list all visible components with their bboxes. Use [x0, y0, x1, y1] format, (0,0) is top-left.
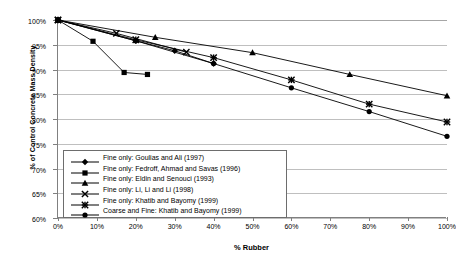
legend-marker-star-icon — [70, 196, 100, 206]
y-axis-tick-label: 95% — [32, 42, 46, 49]
y-axis-tick-label: 70% — [32, 166, 46, 173]
legend-item[interactable]: Fine only: Goulias and Ali (1997) — [64, 153, 286, 164]
x-axis-tick-label: 30% — [168, 223, 182, 230]
series-2 — [55, 17, 451, 99]
legend-item-label: Fine only: Fedroff, Ahmad and Savas (199… — [103, 164, 240, 174]
data-point-circle — [211, 61, 216, 66]
x-axis-tick-label: 80% — [362, 223, 376, 230]
data-point-circle — [82, 213, 87, 218]
series-line — [58, 20, 447, 96]
y-axis-tick-label: 90% — [32, 67, 46, 74]
x-axis-tick-label: 70% — [323, 223, 337, 230]
y-axis-title: % of Control Concrete Mass Density — [29, 8, 36, 208]
x-axis-tick-label: 0% — [53, 223, 63, 230]
y-axis-tick-label: 60% — [32, 216, 46, 223]
x-axis-tick — [447, 217, 448, 221]
y-axis-tick-label: 65% — [32, 191, 46, 198]
legend-marker-diamond-icon — [70, 153, 100, 163]
data-point-circle — [289, 85, 294, 90]
x-axis-title: % Rubber — [57, 243, 446, 252]
x-axis-tick-label: 20% — [129, 223, 143, 230]
x-axis-tick-label: 10% — [90, 223, 104, 230]
chart-legend: Fine only: Goulias and Ali (1997)Fine on… — [63, 150, 287, 218]
data-point-star — [210, 54, 216, 60]
data-point-circle — [133, 38, 138, 43]
x-axis-tick-label: 40% — [207, 223, 221, 230]
legend-item-label: Fine only: Goulias and Ali (1997) — [103, 153, 204, 163]
x-axis-tick-label: 100% — [438, 223, 456, 230]
data-point-square — [122, 70, 127, 75]
data-point-square — [90, 39, 95, 44]
legend-item[interactable]: Fine only: Fedroff, Ahmad and Savas (199… — [64, 164, 286, 175]
series-line — [58, 20, 447, 136]
legend-marker-circle-icon — [70, 206, 100, 216]
legend-marker-triangle-icon — [70, 174, 100, 184]
data-point-star — [288, 77, 294, 83]
x-axis-tick-label: 50% — [245, 223, 259, 230]
y-axis-tick-label: 75% — [32, 141, 46, 148]
x-axis-tick-label: 60% — [284, 223, 298, 230]
data-point-star — [444, 119, 450, 125]
legend-item[interactable]: Fine only: Eldin and Senouci (1993) — [64, 174, 286, 185]
data-point-circle — [55, 17, 60, 22]
legend-item-label: Fine only: Khatib and Bayomy (1999) — [103, 196, 218, 206]
y-axis-tick-label: 85% — [32, 92, 46, 99]
series-1 — [55, 17, 150, 77]
legend-item[interactable]: Fine only: Li, Li and Li (1998) — [64, 185, 286, 196]
data-point-star — [366, 101, 372, 107]
legend-item-label: Fine only: Eldin and Senouci (1993) — [103, 174, 214, 184]
legend-item-label: Coarse and Fine: Khatib and Bayomy (1999… — [103, 206, 242, 216]
data-point-square — [145, 72, 150, 77]
y-axis-tick-label: 100% — [28, 18, 46, 25]
data-point-circle — [444, 134, 449, 139]
legend-marker-cross-icon — [70, 185, 100, 195]
data-point-circle — [367, 109, 372, 114]
x-axis-tick-label: 90% — [401, 223, 415, 230]
legend-item-label: Fine only: Li, Li and Li (1998) — [103, 185, 193, 195]
y-axis-tick-label: 80% — [32, 117, 46, 124]
legend-marker-square-icon — [70, 164, 100, 174]
legend-item[interactable]: Coarse and Fine: Khatib and Bayomy (1999… — [64, 206, 286, 217]
legend-item[interactable]: Fine only: Khatib and Bayomy (1999) — [64, 195, 286, 206]
